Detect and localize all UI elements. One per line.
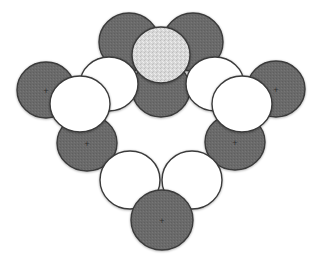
molecule-diagram: +++++ [0,0,313,259]
nucleus-marker-icon: + [43,87,49,95]
light-atom-circle [212,76,272,132]
nucleus-marker-icon: + [159,217,165,225]
atom-central-speckled [132,27,190,83]
molecule-canvas: +++++ [0,0,313,259]
nucleus-marker-icon: + [232,139,238,147]
nucleus-marker-icon: + [84,140,90,148]
central-atom-circle [132,27,190,83]
atoms-group: +++++ [17,13,305,250]
atom-left-front-light [50,76,110,132]
atom-right-front-light [212,76,272,132]
light-atom-circle [50,76,110,132]
nucleus-marker-icon: + [273,86,279,94]
atom-bottom-dark: + [131,190,193,250]
